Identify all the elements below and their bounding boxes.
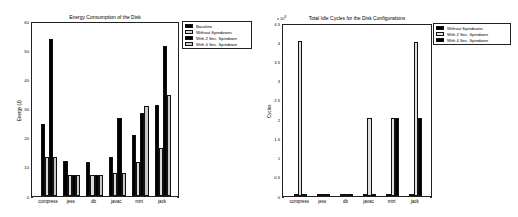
y-tick-label: 0.5 <box>266 175 280 180</box>
legend-swatch <box>436 38 444 43</box>
legend-label: With 2 Sec. Spindown <box>447 32 488 37</box>
bar <box>298 41 302 196</box>
cycles-y-axis-label: Cycles <box>267 104 272 118</box>
y-tick-mark <box>282 197 284 198</box>
y-multiplier: x 108 <box>277 15 286 21</box>
y-tick-label: 3.5 <box>266 60 280 65</box>
y-tick-label: 2 <box>266 118 280 123</box>
bar <box>372 194 376 196</box>
x-tick-label: jack <box>400 199 430 204</box>
legend-item-4sec-spindown: With 4 Sec. Spindown <box>436 37 508 43</box>
bar <box>367 118 371 196</box>
y-tick-label: 1.5 <box>266 137 280 142</box>
multiplier-exponent: 8 <box>285 15 287 19</box>
y-tick-mark <box>430 197 432 198</box>
y-tick-label: 0 <box>266 195 280 200</box>
y-tick-label: 4 <box>266 41 280 46</box>
idle-cycles-chart-title: Total Idle Cycles for the Disk Configura… <box>282 15 432 21</box>
idle-cycles-chart: Total Idle Cycles for the Disk Configura… <box>0 0 518 217</box>
legend-swatch <box>436 32 444 37</box>
y-tick-label: 3 <box>266 79 280 84</box>
legend-label: With 4 Sec. Spindown <box>447 38 488 43</box>
bar <box>418 118 422 196</box>
legend-swatch <box>436 26 444 31</box>
bar <box>325 194 329 196</box>
bar <box>349 194 353 196</box>
cycles-plot-area <box>282 24 432 197</box>
y-tick-label: 2.5 <box>266 98 280 103</box>
y-tick-label: 4.5 <box>266 22 280 27</box>
legend-label: Without Spindowns <box>447 26 483 31</box>
bar <box>395 118 399 196</box>
y-tick-label: 1 <box>266 156 280 161</box>
bar <box>302 194 306 196</box>
cycles-legend: Without Spindowns With 2 Sec. Spindown W… <box>433 23 511 45</box>
